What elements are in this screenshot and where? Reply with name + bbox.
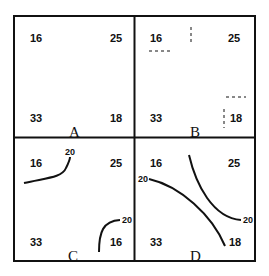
panel-label: C — [68, 248, 78, 264]
value-top-right: 25 — [110, 157, 122, 169]
panel-label: A — [69, 124, 80, 140]
value-bottom-left: 33 — [30, 236, 42, 248]
value-bottom-left: 33 — [150, 236, 162, 248]
value-bottom-right: 18 — [229, 236, 241, 248]
value-top-right: 25 — [228, 157, 240, 169]
panel-d: 16 25 33 18 20 20 D — [138, 155, 253, 264]
value-top-right: 25 — [110, 32, 122, 44]
panel-label: B — [190, 124, 200, 140]
isoline-label: 20 — [243, 215, 253, 225]
value-bottom-left: 33 — [150, 112, 162, 124]
value-top-left: 16 — [30, 157, 42, 169]
value-bottom-right: 16 — [110, 236, 122, 248]
isoline-label: 20 — [122, 215, 132, 225]
isoline-exercise-figure: 16 25 33 18 A 16 25 33 18 B 16 25 33 16 … — [0, 0, 269, 276]
value-bottom-right: 18 — [230, 112, 242, 124]
isoline-label: 20 — [65, 147, 75, 157]
value-top-left: 16 — [30, 32, 42, 44]
value-top-left: 16 — [150, 32, 162, 44]
panel-a: 16 25 33 18 A — [30, 32, 122, 140]
isoline-label: 20 — [138, 174, 148, 184]
value-bottom-left: 33 — [30, 112, 42, 124]
value-bottom-right: 18 — [110, 112, 122, 124]
value-top-left: 16 — [150, 157, 162, 169]
panel-label: D — [190, 248, 201, 264]
panel-b: 16 25 33 18 B — [149, 27, 246, 140]
panel-c: 16 25 33 16 20 20 C — [24, 147, 132, 264]
value-top-right: 25 — [228, 32, 240, 44]
